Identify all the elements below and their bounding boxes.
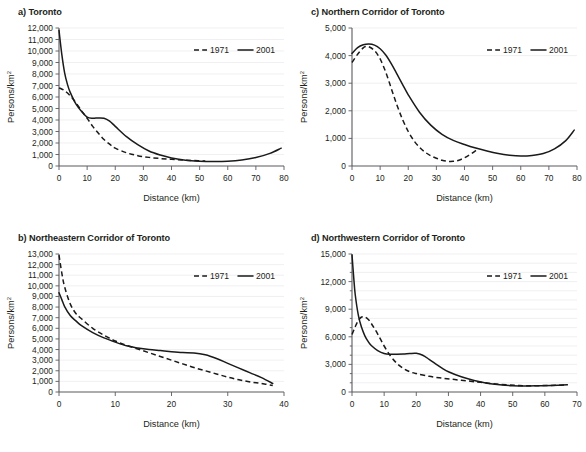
chart-legend: 19712001 <box>487 45 568 55</box>
legend-label-2001: 2001 <box>549 45 568 55</box>
y-tick-label: 8,000 <box>32 69 53 79</box>
x-tick-label: 10 <box>82 173 92 183</box>
y-tick-label: 2,000 <box>32 138 53 148</box>
y-tick-label: 1,000 <box>325 133 346 143</box>
x-tick-label: 40 <box>476 399 486 409</box>
chart-panel-d: d) Northwestern Corridor of Toronto 03,0… <box>293 226 586 452</box>
y-tick-label: 4,000 <box>32 115 53 125</box>
x-tick-label: 60 <box>516 173 526 183</box>
x-tick-label: 0 <box>57 173 62 183</box>
y-tick-label: 0 <box>48 161 53 171</box>
x-axis-title: Distance (km) <box>143 419 200 429</box>
y-axis-title: Persons/km2 <box>299 297 309 349</box>
y-tick-label: 6,000 <box>32 323 53 333</box>
legend-label-2001: 2001 <box>256 271 275 281</box>
y-tick-label: 9,000 <box>325 304 346 314</box>
y-tick-label: 12,000 <box>320 277 346 287</box>
y-tick-label: 1,000 <box>32 376 53 386</box>
series-line-2001 <box>59 293 273 384</box>
x-tick-label: 70 <box>251 173 261 183</box>
y-tick-label: 3,000 <box>32 355 53 365</box>
y-tick-label: 6,000 <box>325 332 346 342</box>
legend-label-2001: 2001 <box>256 45 275 55</box>
y-axis-title: Persons/km2 <box>6 297 16 349</box>
y-tick-label: 2,000 <box>325 106 346 116</box>
legend-label-1971: 1971 <box>503 271 522 281</box>
chart-title-b: b) Northeastern Corridor of Toronto <box>18 233 170 243</box>
chart-svg-a: 01,0002,0003,0004,0005,0006,0007,0008,00… <box>0 18 293 226</box>
x-tick-label: 30 <box>223 399 233 409</box>
y-axis-title: Persons/km2 <box>6 71 16 123</box>
y-tick-label: 2,000 <box>32 366 53 376</box>
legend-label-1971: 1971 <box>503 45 522 55</box>
svg-text:Persons/km2: Persons/km2 <box>299 297 309 349</box>
x-tick-label: 0 <box>57 399 62 409</box>
y-tick-label: 10,000 <box>27 281 53 291</box>
x-tick-label: 40 <box>460 173 470 183</box>
chart-svg-b: 01,0002,0003,0004,0005,0006,0007,0008,00… <box>0 244 293 452</box>
x-tick-label: 80 <box>279 173 289 183</box>
x-tick-label: 70 <box>544 173 554 183</box>
chart-svg-c: 01,0002,0003,0004,0005,00001020304050607… <box>293 18 586 226</box>
y-tick-label: 0 <box>341 161 346 171</box>
y-tick-label: 9,000 <box>32 58 53 68</box>
svg-text:Persons/km2: Persons/km2 <box>6 71 16 123</box>
x-tick-label: 10 <box>375 173 385 183</box>
chart-title-c: c) Northern Corridor of Toronto <box>311 7 445 17</box>
series-line-1971 <box>352 317 567 386</box>
x-tick-label: 20 <box>167 399 177 409</box>
figure-grid: a) Toronto 01,0002,0003,0004,0005,0006,0… <box>0 0 586 452</box>
x-tick-label: 0 <box>350 399 355 409</box>
x-tick-label: 60 <box>223 173 233 183</box>
x-tick-label: 10 <box>379 399 389 409</box>
chart-panel-b: b) Northeastern Corridor of Toronto 01,0… <box>0 226 293 452</box>
x-tick-label: 20 <box>412 399 422 409</box>
chart-title-d: d) Northwestern Corridor of Toronto <box>311 233 465 243</box>
x-tick-label: 20 <box>111 173 121 183</box>
y-tick-label: 4,000 <box>32 345 53 355</box>
series-line-1971 <box>59 255 273 385</box>
x-tick-label: 30 <box>432 173 442 183</box>
y-tick-label: 8,000 <box>32 302 53 312</box>
x-tick-label: 80 <box>572 173 582 183</box>
chart-panel-c: c) Northern Corridor of Toronto 01,0002,… <box>293 0 586 226</box>
y-tick-label: 5,000 <box>32 104 53 114</box>
y-tick-label: 5,000 <box>32 334 53 344</box>
y-tick-label: 7,000 <box>32 313 53 323</box>
y-tick-label: 3,000 <box>32 127 53 137</box>
x-tick-label: 60 <box>540 399 550 409</box>
x-tick-label: 40 <box>279 399 289 409</box>
y-tick-label: 12,000 <box>27 23 53 33</box>
series-line-1971 <box>352 46 479 161</box>
x-tick-label: 10 <box>111 399 121 409</box>
y-axis-title: Persons/km2 <box>299 71 309 123</box>
x-tick-label: 30 <box>139 173 149 183</box>
x-tick-label: 50 <box>508 399 518 409</box>
x-tick-label: 20 <box>404 173 414 183</box>
y-tick-label: 1,000 <box>32 150 53 160</box>
legend-label-1971: 1971 <box>210 271 229 281</box>
y-tick-label: 3,000 <box>325 359 346 369</box>
series-line-2001 <box>352 44 574 156</box>
legend-label-2001: 2001 <box>549 271 568 281</box>
legend-label-1971: 1971 <box>210 45 229 55</box>
x-tick-label: 0 <box>350 173 355 183</box>
x-axis-title: Distance (km) <box>436 419 493 429</box>
chart-title-a: a) Toronto <box>18 7 62 17</box>
y-tick-label: 5,000 <box>325 23 346 33</box>
series-line-2001 <box>352 255 567 386</box>
y-tick-label: 7,000 <box>32 81 53 91</box>
y-tick-label: 6,000 <box>32 92 53 102</box>
y-tick-label: 0 <box>341 387 346 397</box>
x-axis-title: Distance (km) <box>143 193 200 203</box>
x-tick-label: 70 <box>572 399 582 409</box>
x-tick-label: 40 <box>167 173 177 183</box>
y-tick-label: 3,000 <box>325 78 346 88</box>
series-line-1971 <box>59 88 205 161</box>
chart-legend: 19712001 <box>194 45 275 55</box>
svg-text:Persons/km2: Persons/km2 <box>6 297 16 349</box>
x-tick-label: 50 <box>488 173 498 183</box>
y-tick-label: 13,000 <box>27 249 53 259</box>
y-tick-label: 10,000 <box>27 46 53 56</box>
y-tick-label: 11,000 <box>28 270 53 280</box>
